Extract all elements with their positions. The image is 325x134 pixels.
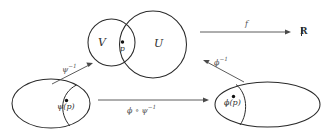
label-set-v: V <box>98 37 106 48</box>
label-point-p: p <box>120 45 125 53</box>
label-map-psi-inverse-exponent: −1 <box>68 63 76 69</box>
math-diagram-canvas: V U p ψ(p) ϕ(p) f R ψ−1 ϕ−1 ϕ ∘ ψ−1 <box>0 0 325 134</box>
arrow-head-transition <box>203 98 209 103</box>
label-codomain-reals: R <box>300 27 307 36</box>
label-point-psi-p: ψ(p) <box>57 103 75 111</box>
arrow-head-f <box>285 30 291 35</box>
diagram-vector-layer <box>0 0 325 134</box>
label-map-psi-inverse: ψ−1 <box>62 64 77 74</box>
blackboard-bold-r-glyph: R <box>300 26 307 36</box>
label-map-transition-base: ϕ ∘ ψ <box>127 106 148 115</box>
label-map-f: f <box>245 20 248 28</box>
label-map-transition-exponent: −1 <box>148 104 156 110</box>
label-map-phi-inverse-exponent: −1 <box>219 56 227 62</box>
circle-chart-domain-u <box>120 11 187 78</box>
ellipse-psi-image <box>12 79 90 128</box>
label-map-transition: ϕ ∘ ψ−1 <box>127 105 156 115</box>
label-set-u: U <box>154 38 163 49</box>
circle-chart-domain-v <box>88 19 135 66</box>
label-point-phi-p: ϕ(p) <box>224 99 241 107</box>
label-map-phi-inverse: ϕ−1 <box>214 57 228 67</box>
